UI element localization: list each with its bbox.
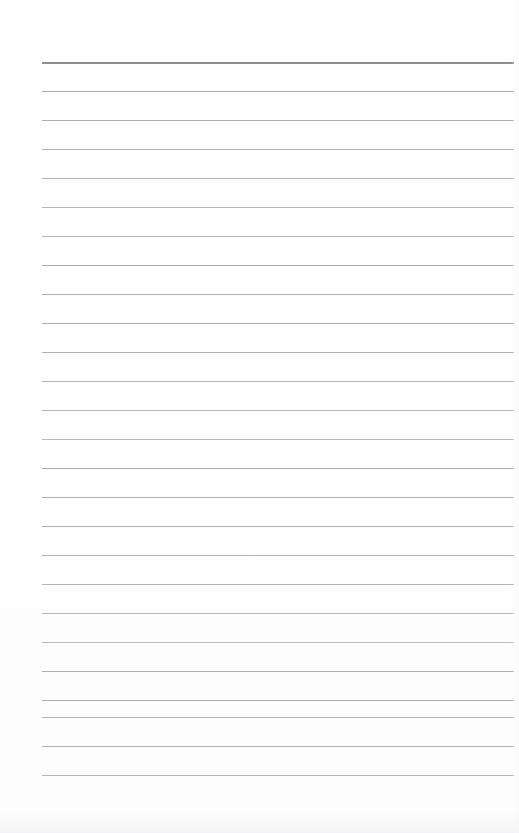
ruled-line xyxy=(42,468,514,469)
ruled-line xyxy=(42,671,514,672)
ruled-line xyxy=(42,746,514,747)
ruled-line xyxy=(42,120,514,121)
ruled-line xyxy=(42,613,514,614)
ruled-lines-layer xyxy=(0,0,519,833)
ruled-line xyxy=(42,265,514,266)
ruled-line xyxy=(42,149,514,150)
ruled-line xyxy=(42,62,514,64)
ruled-line xyxy=(42,439,514,440)
ruled-line xyxy=(42,642,514,643)
ruled-line xyxy=(42,775,514,776)
ruled-line xyxy=(42,584,514,585)
ruled-line xyxy=(42,352,514,353)
ruled-line xyxy=(42,323,514,324)
ruled-line xyxy=(42,555,514,556)
ruled-line xyxy=(42,236,514,237)
ruled-line xyxy=(42,717,514,718)
ruled-line xyxy=(42,700,514,701)
ruled-line xyxy=(42,410,514,411)
ruled-line xyxy=(42,91,514,92)
ruled-line xyxy=(42,178,514,179)
ruled-line xyxy=(42,207,514,208)
ruled-line xyxy=(42,381,514,382)
scanned-page xyxy=(0,0,519,833)
ruled-line xyxy=(42,526,514,527)
ruled-line xyxy=(42,294,514,295)
ruled-line xyxy=(42,497,514,498)
